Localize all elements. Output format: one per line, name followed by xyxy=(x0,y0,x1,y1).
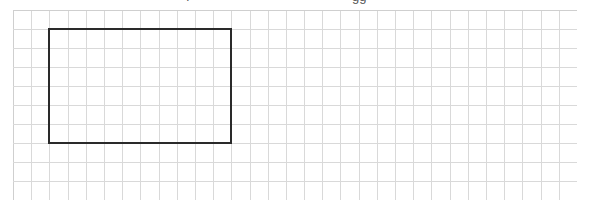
caption-fragment: gg xyxy=(352,0,366,4)
clipped-caption-text: ı · gg xyxy=(0,0,593,3)
caption-fragment: · xyxy=(270,0,274,4)
caption-fragment: ı xyxy=(186,0,190,4)
drawn-rectangle xyxy=(48,28,232,144)
grid-paper xyxy=(13,10,577,200)
